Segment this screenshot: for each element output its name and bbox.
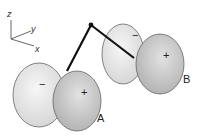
orbital-a-negative-sign: − — [39, 78, 45, 90]
orbital-a: − + A — [13, 63, 105, 131]
y-axis-label: y — [30, 24, 36, 34]
x-axis-label: x — [34, 44, 40, 54]
z-axis-label: z — [6, 9, 12, 19]
orbital-b-label: B — [183, 73, 190, 85]
bond-vertex-dot — [89, 23, 94, 28]
orbital-b-positive-sign: + — [163, 49, 169, 61]
orbital-b-negative-sign: − — [132, 29, 138, 41]
orbital-a-positive-sign: + — [81, 86, 87, 98]
x-axis — [11, 39, 34, 46]
orbital-overlap-diagram: z y x − + B − + A — [0, 0, 202, 138]
orbital-a-front-lobe — [53, 71, 101, 131]
orbital-a-label: A — [97, 112, 105, 124]
orbital-b-front-lobe — [136, 34, 184, 94]
y-axis — [11, 31, 31, 39]
orbital-b-front: + B — [136, 34, 190, 94]
